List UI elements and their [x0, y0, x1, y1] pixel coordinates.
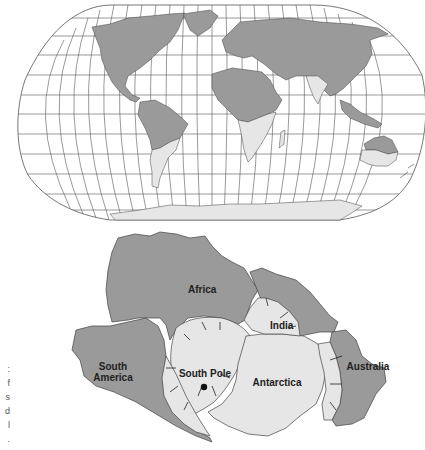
label-africa: Africa: [188, 284, 217, 295]
caption-char: f: [0, 376, 10, 390]
label-south-america-1: South: [99, 361, 127, 372]
gondwana-map: Africa South America South Pole India An…: [72, 232, 390, 442]
caption-fragment: : f s d l .: [0, 362, 10, 446]
caption-char: l: [0, 418, 10, 432]
label-australia: Australia: [347, 361, 390, 372]
label-south-america-2: America: [93, 372, 133, 383]
caption-char: d: [0, 404, 10, 418]
label-india: India: [270, 320, 294, 331]
caption-char: s: [0, 390, 10, 404]
south-pole-marker: [201, 384, 207, 390]
world-map: [0, 5, 425, 220]
label-south-pole: South Pole: [179, 368, 232, 379]
label-antarctica: Antarctica: [253, 377, 302, 388]
figure: Africa South America South Pole India An…: [0, 0, 425, 450]
caption-char: .: [0, 432, 10, 446]
caption-char: :: [0, 362, 10, 376]
